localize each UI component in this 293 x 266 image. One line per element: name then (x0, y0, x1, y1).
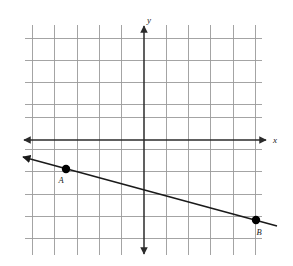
point-b (252, 216, 260, 224)
point-a (62, 165, 70, 173)
coordinate-plane-figure: x y A B (0, 0, 293, 266)
point-b-label: B (256, 227, 261, 237)
point-a-label: A (57, 175, 64, 185)
y-axis-label: y (146, 15, 151, 25)
x-axis-label: x (272, 135, 277, 145)
line-ab (23, 157, 277, 226)
graph-canvas: x y A B (0, 0, 293, 266)
